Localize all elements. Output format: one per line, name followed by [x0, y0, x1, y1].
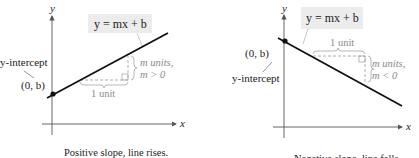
left-intercept-pointer [24, 71, 34, 78]
left-y-axis-label: y [49, 2, 55, 14]
left-panel: x y y = mx + b 1 unit m units, m > 0 y-i… [0, 2, 185, 158]
right-intercept-point [282, 38, 287, 43]
left-intercept-point [50, 91, 55, 96]
right-run-brace [313, 48, 365, 54]
slope-diagram: x y y = mx + b 1 unit m units, m > 0 y-i… [0, 0, 419, 158]
left-caption: Positive slope, line rises. [64, 147, 168, 158]
left-intercept-label: y-intercept [0, 56, 48, 68]
right-equation-pointer [303, 29, 308, 44]
left-run-label: 1 unit [91, 88, 115, 99]
left-right-angle-marker [122, 74, 128, 80]
left-rise-brace [131, 56, 137, 80]
right-right-angle-marker [359, 56, 365, 62]
right-intercept-pointer [263, 62, 272, 72]
left-point-label: (0, b) [21, 79, 45, 92]
right-intercept-label: y-intercept [232, 72, 280, 84]
right-point-label: (0, b) [245, 47, 269, 60]
right-run-label: 1 unit [330, 37, 354, 48]
left-x-axis-label: x [179, 117, 185, 129]
right-caption: Negative slope, line falls. [294, 153, 401, 158]
left-equation-label: y = mx + b [94, 17, 147, 31]
left-equation-pointer [137, 33, 143, 48]
right-rise-label-2: m < 0 [372, 70, 398, 81]
right-slope-triangle [313, 56, 365, 82]
right-rise-label-1: m units, [372, 58, 405, 69]
right-equation-label: y = mx + b [306, 11, 359, 25]
right-x-axis-label: x [405, 120, 411, 132]
right-y-axis-label: y [281, 2, 287, 14]
right-panel: x y y = mx + b 1 unit m units, m < 0 (0,… [232, 2, 411, 158]
left-rise-label-1: m units, [140, 57, 173, 68]
left-rise-label-2: m > 0 [140, 69, 166, 80]
